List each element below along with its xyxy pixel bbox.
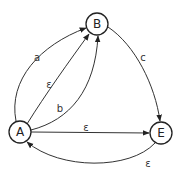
edge-label-epsilon-ae: ε — [83, 122, 88, 133]
node-e: E — [150, 122, 172, 144]
svg-text:E: E — [157, 126, 165, 140]
edge-a-to-b-a — [15, 28, 86, 121]
node-b: B — [86, 13, 108, 35]
edge-a-to-b-b — [31, 36, 98, 130]
edge-label-epsilon-ea: ε — [145, 158, 150, 169]
edge-label-epsilon-ab: ε — [46, 79, 51, 90]
edge-label-b: b — [57, 103, 63, 114]
svg-text:B: B — [93, 17, 101, 31]
node-a: A — [9, 121, 31, 143]
edge-label-c: c — [140, 52, 146, 63]
edge-a-to-e-epsilon — [31, 132, 149, 133]
state-diagram: a ε b c ε ε A B E — [0, 0, 186, 174]
svg-text:A: A — [16, 125, 25, 139]
edge-e-to-a-epsilon — [27, 142, 155, 163]
edge-b-to-e-c — [108, 27, 160, 121]
edge-label-a: a — [34, 52, 40, 63]
